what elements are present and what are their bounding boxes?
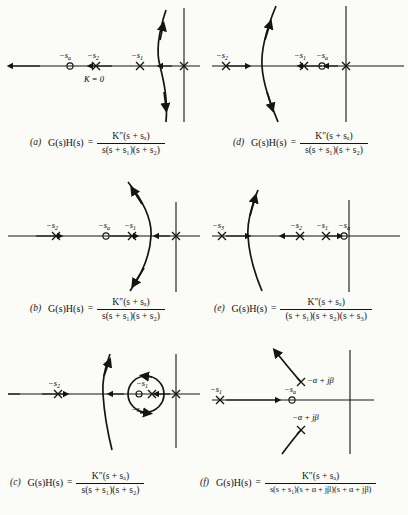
root-locus-plot-c: −s2 −s1 −sa: [0, 336, 204, 451]
root-locus-plot-b: −s2 −sa −s1: [0, 172, 204, 292]
equation-lhs-e: G(s)H(s): [232, 297, 272, 314]
pole-label-s1: −s1: [136, 378, 148, 389]
locus-branch: [262, 6, 278, 122]
equals-sign-c: =: [67, 471, 76, 487]
root-locus-figure-page: −sa −s2 −s1 K = 0 (a) G(s)H(s) = K″(s + …: [0, 0, 408, 515]
caption-c: (c) G(s)H(s) = K″(s + sₐ) s(s + s₁)(s + …: [10, 471, 144, 496]
equation-fraction-f: K″(s + sₐ) s(s + s₁)(s + α + jβ)(s + α +…: [265, 471, 377, 495]
zero-label-sa: −sa: [338, 220, 350, 231]
panel-tag-a: (a): [30, 131, 48, 147]
panel-tag-f: (f): [200, 471, 216, 487]
caption-d: (d) G(s)H(s) = K″(s + sₐ) s(s + s₁)(s + …: [233, 131, 368, 156]
complex-pole-label-lower: −α + jβ: [292, 412, 320, 422]
pole-label-s2: −s2: [290, 220, 302, 231]
equation-lhs-f: G(s)H(s): [216, 471, 256, 488]
denominator-e: (s + s₁)(s + s₂)(s + s₃): [280, 309, 371, 322]
panel-tag-b: (b): [30, 297, 48, 313]
zero-label-sa: −sa: [98, 220, 110, 231]
locus-branch-upper: [276, 352, 301, 382]
pole-label-s2: −s2: [48, 378, 60, 389]
equation-lhs-b: G(s)H(s): [48, 297, 88, 314]
pole-label-s3: −s3: [212, 220, 224, 231]
numerator-a: K″(s + sₐ): [107, 131, 154, 143]
equation-fraction-d: K″(s + sₐ) s(s + s₁)(s + s₂): [300, 131, 368, 156]
pole-label-s1: −s1: [210, 384, 222, 395]
denominator-c: s(s + s₁)(s + s₂): [76, 483, 144, 496]
pole-label-s1: −s1: [316, 220, 328, 231]
root-locus-plot-f: −s1 −sa −α + jβ −α + jβ: [204, 336, 408, 454]
numerator-b: K″(s + sₐ): [107, 297, 154, 309]
root-locus-plot-d: −s2 −s1 −sa: [204, 0, 408, 125]
panel-tag-d: (d): [233, 131, 251, 147]
locus-branch: [248, 190, 262, 291]
equals-sign-d: =: [291, 131, 300, 147]
equation-lhs-c: G(s)H(s): [28, 471, 68, 488]
zero-label-sa: −sa: [131, 404, 143, 415]
caption-b: (b) G(s)H(s) = K″(s + sₐ) s(s + s₁)(s + …: [30, 297, 165, 322]
complex-pole-label-upper: −α + jβ: [307, 375, 335, 385]
numerator-d: K″(s + sₐ): [310, 131, 357, 143]
pole-label-s1: −s1: [124, 220, 136, 231]
pole-label-s2: −s2: [87, 50, 99, 61]
equation-lhs-a: G(s)H(s): [48, 131, 88, 148]
denominator-a: s(s + s₁)(s + s₂): [97, 143, 165, 156]
caption-f: (f) G(s)H(s) = K″(s + sₐ) s(s + s₁)(s + …: [200, 471, 376, 495]
equals-sign-a: =: [88, 131, 97, 147]
panel-tag-c: (c): [10, 471, 28, 487]
caption-e: (e) G(s)H(s) = K″(s + sₐ) (s + s₁)(s + s…: [214, 297, 372, 322]
zero-label-sa: −sa: [316, 50, 328, 61]
root-locus-plot-e: −s3 −s2 −s1 −sa: [204, 172, 408, 292]
equals-sign-e: =: [271, 297, 280, 313]
pole-label-s1: −s1: [294, 50, 306, 61]
zero-label-sa: −sa: [284, 384, 296, 395]
equation-lhs-d: G(s)H(s): [251, 131, 291, 148]
pole-label-s1: −s1: [131, 50, 143, 61]
denominator-f: s(s + s₁)(s + α + jβ)(s + α + jβ): [265, 483, 377, 495]
zero-label-sa: −sa: [59, 50, 71, 61]
locus-branch-lower: [282, 430, 301, 454]
equation-fraction-c: K″(s + sₐ) s(s + s₁)(s + s₂): [76, 471, 144, 496]
pole-label-s2: −s2: [46, 220, 58, 231]
numerator-c: K″(s + sₐ): [87, 471, 134, 483]
equals-sign-f: =: [256, 471, 265, 487]
caption-a: (a) G(s)H(s) = K″(s + sₐ) s(s + s₁)(s + …: [30, 131, 165, 156]
denominator-b: s(s + s₁)(s + s₂): [97, 309, 165, 322]
panel-tag-e: (e): [214, 297, 232, 313]
equals-sign-b: =: [88, 297, 97, 313]
denominator-d: s(s + s₁)(s + s₂): [300, 143, 368, 156]
numerator-e: K″(s + sₐ): [303, 297, 350, 309]
equation-fraction-e: K″(s + sₐ) (s + s₁)(s + s₂)(s + s₃): [280, 297, 371, 322]
equation-fraction-b: K″(s + sₐ) s(s + s₁)(s + s₂): [97, 297, 165, 322]
pole-label-s2: −s2: [216, 50, 228, 61]
gain-zero-annotation: K = 0: [83, 74, 105, 84]
equation-fraction-a: K″(s + sₐ) s(s + s₁)(s + s₂): [97, 131, 165, 156]
root-locus-plot-a: −sa −s2 −s1 K = 0: [0, 0, 204, 125]
numerator-f: K″(s + sₐ): [297, 471, 344, 483]
